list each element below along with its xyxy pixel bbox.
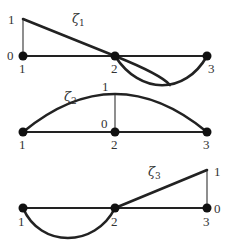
node-label-2: 2 — [111, 214, 118, 229]
node-label-3: 3 — [203, 214, 210, 229]
shape-function-diagram: 1 0 1 2 3 ζ1 1 0 1 2 3 ζ2 1 0 1 2 3 ζ3 — [0, 0, 232, 249]
function-label: ζ3 — [148, 164, 161, 181]
node-label-2: 2 — [111, 137, 118, 152]
panel-zeta-3: 1 0 1 2 3 ζ3 — [18, 164, 221, 238]
node-2 — [111, 204, 120, 213]
node-1 — [19, 52, 28, 61]
node-label-3: 3 — [203, 137, 210, 152]
node-3 — [203, 128, 212, 137]
value-label-low: 0 — [101, 116, 108, 131]
node-1 — [19, 204, 28, 213]
value-label-high: 1 — [102, 79, 109, 94]
value-label-low: 0 — [7, 48, 14, 63]
node-label-1: 1 — [18, 214, 25, 229]
value-label-high: 1 — [214, 164, 221, 179]
panel-zeta-1: 1 0 1 2 3 ζ1 — [7, 11, 215, 85]
value-label-low: 0 — [214, 201, 221, 216]
node-2 — [111, 128, 120, 137]
node-2 — [111, 52, 120, 61]
node-3 — [203, 204, 212, 213]
node-label-2: 2 — [111, 61, 118, 76]
panel-zeta-2: 1 0 1 2 3 ζ2 — [19, 79, 212, 152]
node-label-1: 1 — [19, 137, 26, 152]
node-label-1: 1 — [19, 61, 26, 76]
value-label-high: 1 — [8, 12, 15, 27]
function-label: ζ1 — [72, 11, 85, 28]
function-label: ζ2 — [64, 89, 77, 106]
node-label-3: 3 — [208, 61, 215, 76]
node-3 — [203, 52, 212, 61]
node-1 — [19, 128, 28, 137]
